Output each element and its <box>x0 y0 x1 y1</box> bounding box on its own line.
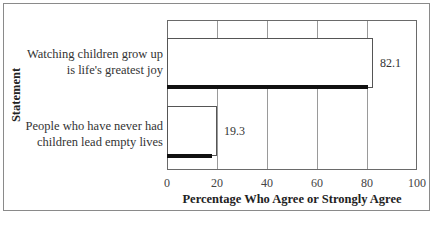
bar-shadow-never-had-children <box>167 154 212 158</box>
y-axis-label: Statement <box>9 68 24 122</box>
x-tick-0: 0 <box>164 176 170 191</box>
value-label-1: 82.1 <box>380 56 401 71</box>
x-tick-60: 60 <box>311 176 323 191</box>
x-tick-100: 100 <box>408 176 426 191</box>
value-label-2: 19.3 <box>224 124 245 139</box>
category-label-1-line-2: is life's greatest joy <box>27 62 163 78</box>
category-label-1-line-1: Watching children grow up <box>27 46 163 62</box>
x-tick-40: 40 <box>261 176 273 191</box>
category-label-2-line-1: People who have never had <box>26 118 163 134</box>
x-axis-label: Percentage Who Agree or Strongly Agree <box>167 192 417 207</box>
plot-area: 82.1 19.3 <box>167 20 417 170</box>
x-tick-80: 80 <box>361 176 373 191</box>
bar-shadow-watching-children <box>167 85 368 89</box>
x-tick-20: 20 <box>211 176 223 191</box>
bar-watching-children <box>167 38 373 88</box>
category-label-2: People who have never had children lead … <box>26 118 163 150</box>
category-label-2-line-2: children lead empty lives <box>26 134 163 150</box>
bar-never-had-children <box>167 106 217 156</box>
category-label-1: Watching children grow up is life's grea… <box>27 46 163 78</box>
